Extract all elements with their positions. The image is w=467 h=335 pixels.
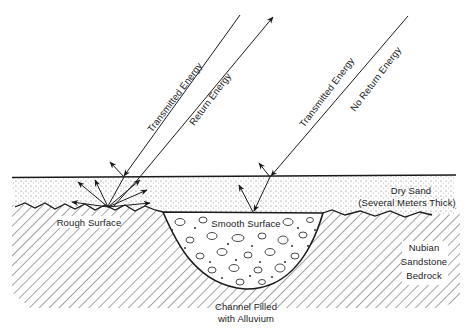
right-transmitted-ray (271, 16, 408, 176)
right-transmitted-label: Transmitted Energy (297, 55, 357, 129)
radar-penetration-diagram: Transmitted Energy Return Energy Transmi… (0, 0, 467, 335)
dry-sand-label: Dry Sand (391, 185, 431, 196)
svg-text:Nubian: Nubian (409, 242, 440, 253)
left-surface-reflection (110, 162, 124, 177)
no-return-label: No Return Energy (348, 44, 404, 113)
channel-label-line2: with Alluvium (217, 313, 274, 324)
svg-text:Smooth Surface: Smooth Surface (211, 218, 281, 229)
smooth-surface-label: Smooth Surface (211, 218, 281, 230)
right-surface-reflection (259, 163, 270, 177)
channel-label-line1: Channel Filled (215, 301, 277, 312)
dry-sand-thickness-label: (Several Meters Thick) (358, 197, 456, 208)
svg-text:Sandstone: Sandstone (401, 256, 447, 267)
svg-text:Rough Surface: Rough Surface (57, 217, 122, 228)
svg-text:Bedrock: Bedrock (406, 270, 442, 281)
bedrock-label: Nubian Sandstone Bedrock (401, 241, 448, 285)
rough-surface-label: Rough Surface (57, 216, 122, 228)
